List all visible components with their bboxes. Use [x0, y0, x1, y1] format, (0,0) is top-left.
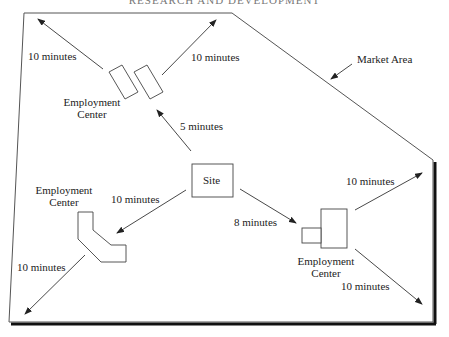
employment-center-left-label-line1: Employment [28, 184, 100, 196]
market-area-diagram: RESEARCH AND DEVELOPMENT [0, 0, 449, 337]
travel-time-right-upper-right: 10 minutes [346, 175, 395, 187]
employment-center-top-label: Employment Center [56, 96, 128, 120]
market-area-pointer-arrow [331, 64, 352, 79]
employment-center-right-label-line1: Employment [290, 255, 362, 267]
employment-center-right-label-line2: Center [290, 267, 362, 279]
travel-time-site-to-left: 10 minutes [111, 193, 160, 205]
employment-center-left-label-line2: Center [28, 196, 100, 208]
employment-center-right-label: Employment Center [290, 255, 362, 279]
travel-time-site-to-top: 5 minutes [180, 120, 223, 132]
travel-time-site-to-right: 8 minutes [234, 216, 277, 228]
market-area-label: Market Area [357, 53, 412, 65]
employment-center-right-shape [302, 209, 347, 248]
employment-center-left-shape [78, 212, 126, 262]
employment-center-top-label-line1: Employment [56, 96, 128, 108]
employment-center-top-shape [109, 65, 163, 99]
travel-time-top-upper-right: 10 minutes [191, 51, 240, 63]
arrow-right-center-lower-right [355, 249, 422, 304]
employment-center-top-label-line2: Center [56, 108, 128, 120]
travel-time-left-lower-left: 10 minutes [17, 261, 66, 273]
arrow-top-center-upper-right [162, 20, 216, 75]
travel-time-top-upper-left: 10 minutes [28, 50, 77, 62]
employment-center-left-label: Employment Center [28, 184, 100, 208]
site-label: Site [203, 174, 220, 186]
travel-time-right-lower-right: 10 minutes [341, 280, 390, 292]
